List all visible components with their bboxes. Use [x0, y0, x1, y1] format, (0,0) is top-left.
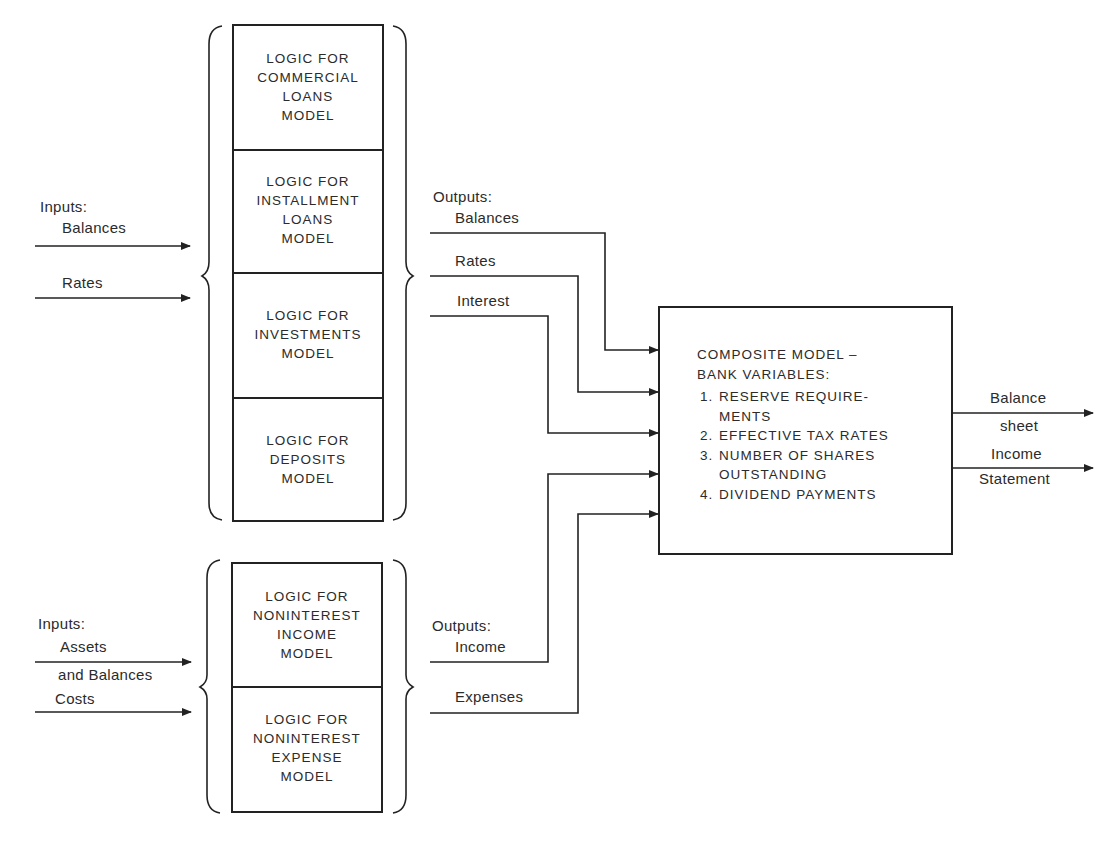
upper-outputs-heading: Outputs:: [433, 187, 492, 206]
model-label-line: NONINTEREST: [232, 606, 382, 625]
model-label-line: MODEL: [233, 344, 383, 363]
noninterest-income-model: LOGIC FOR NONINTEREST INCOME MODEL: [232, 587, 382, 663]
lower-output-expenses-label: Expenses: [455, 687, 523, 706]
model-label-line: MODEL: [232, 644, 382, 663]
upper-inputs-heading: Inputs:: [40, 197, 87, 216]
composite-title-line: COMPOSITE MODEL –: [697, 345, 889, 365]
lower-input-and-balances-label: and Balances: [58, 665, 153, 684]
lower-left-brace: [200, 560, 220, 813]
model-label-line: INCOME: [232, 625, 382, 644]
model-label-line: INVESTMENTS: [233, 325, 383, 344]
upper-output-balances-label: Balances: [455, 208, 519, 227]
upper-output-rates-label: Rates: [455, 251, 496, 270]
upper-input-rates-label: Rates: [62, 273, 103, 292]
composite-title-line: BANK VARIABLES:: [697, 365, 889, 385]
income-statement-label-top: Income: [991, 444, 1042, 463]
model-label-line: LOGIC FOR: [233, 172, 383, 191]
lower-right-brace: [393, 560, 413, 813]
model-label-line: INSTALLMENT: [233, 191, 383, 210]
model-label-line: DEPOSITS: [233, 450, 383, 469]
model-label-line: LOGIC FOR: [233, 306, 383, 325]
lower-inputs-heading: Inputs:: [38, 614, 85, 633]
item-number: 3.: [697, 446, 719, 466]
investments-model: LOGIC FOR INVESTMENTS MODEL: [233, 306, 383, 363]
deposits-model: LOGIC FOR DEPOSITS MODEL: [233, 431, 383, 488]
item-text: RESERVE REQUIRE-: [719, 389, 869, 404]
item-number: 2.: [697, 426, 719, 446]
composite-item-4: 4.DIVIDEND PAYMENTS: [697, 485, 889, 505]
upper-input-balances-label: Balances: [62, 218, 126, 237]
model-label-line: COMMERCIAL: [233, 68, 383, 87]
composite-item-2: 2.EFFECTIVE TAX RATES: [697, 426, 889, 446]
model-label-line: MODEL: [233, 106, 383, 125]
composite-model-text: COMPOSITE MODEL – BANK VARIABLES: 1.RESE…: [697, 345, 889, 504]
installment-loans-model: LOGIC FOR INSTALLMENT LOANS MODEL: [233, 172, 383, 248]
model-label-line: LOANS: [233, 87, 383, 106]
balance-sheet-label-bottom: sheet: [1000, 416, 1038, 435]
composite-item-1: 1.RESERVE REQUIRE-: [697, 387, 889, 407]
lower-input-costs-label: Costs: [55, 689, 95, 708]
model-label-line: NONINTEREST: [232, 729, 382, 748]
composite-item-3-cont: OUTSTANDING: [697, 465, 889, 485]
model-label-line: MODEL: [233, 229, 383, 248]
lower-output-income-label: Income: [455, 637, 506, 656]
model-label-line: MODEL: [233, 469, 383, 488]
diagram-lines: [0, 0, 1119, 845]
item-number: 1.: [697, 387, 719, 407]
lower-input-assets-label: Assets: [60, 637, 107, 656]
model-label-line: LOGIC FOR: [233, 49, 383, 68]
composite-item-1-cont: MENTS: [697, 407, 889, 427]
lower-outputs-heading: Outputs:: [432, 616, 491, 635]
model-label-line: LOGIC FOR: [232, 587, 382, 606]
model-label-line: LOGIC FOR: [233, 431, 383, 450]
income-statement-label-bottom: Statement: [979, 469, 1050, 488]
model-label-line: LOANS: [233, 210, 383, 229]
model-label-line: EXPENSE: [232, 748, 382, 767]
upper-right-brace: [393, 26, 413, 520]
commercial-loans-model: LOGIC FOR COMMERCIAL LOANS MODEL: [233, 49, 383, 125]
upper-left-brace: [202, 26, 222, 520]
model-label-line: MODEL: [232, 767, 382, 786]
upper-output-interest-label: Interest: [457, 291, 509, 310]
item-text: DIVIDEND PAYMENTS: [719, 487, 877, 502]
model-label-line: LOGIC FOR: [232, 710, 382, 729]
item-number: 4.: [697, 485, 719, 505]
noninterest-expense-model: LOGIC FOR NONINTEREST EXPENSE MODEL: [232, 710, 382, 786]
composite-item-3: 3.NUMBER OF SHARES: [697, 446, 889, 466]
item-text: NUMBER OF SHARES: [719, 448, 875, 463]
balance-sheet-label-top: Balance: [990, 388, 1046, 407]
item-text: EFFECTIVE TAX RATES: [719, 428, 889, 443]
